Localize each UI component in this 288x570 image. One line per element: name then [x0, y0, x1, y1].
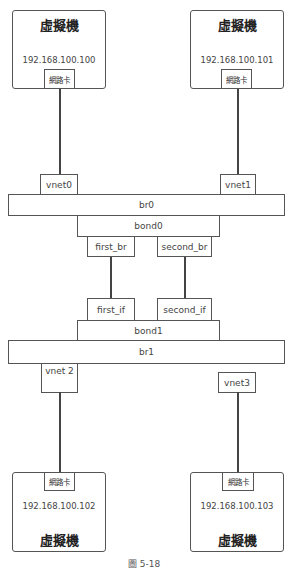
bridge-br0: br0: [8, 194, 285, 216]
vm-3: 網路卡 192.168.100.103 虛擬機: [190, 472, 284, 552]
bond0: bond0: [77, 215, 220, 237]
bond1: bond1: [77, 320, 220, 341]
vm-1-nic: 網路卡: [221, 69, 252, 89]
first-br: first_br: [87, 236, 135, 257]
link-vnet3-vm3: [237, 392, 239, 472]
vm-3-nic: 網路卡: [222, 472, 254, 491]
vm-1-ip: 192.168.100.101: [191, 55, 283, 65]
figure-caption: 圖 5-18: [0, 557, 288, 570]
vm-2-ip: 192.168.100.102: [13, 501, 105, 511]
vnet3: vnet3: [218, 372, 256, 393]
vm-0: 虛擬機 192.168.100.100 網路卡: [12, 10, 106, 89]
vm-3-ip: 192.168.100.103: [191, 501, 283, 511]
vm-2-nic: 網路卡: [44, 472, 75, 491]
vm-2: 網路卡 192.168.100.102 虛擬機: [12, 472, 106, 552]
bridge-br1: br1: [8, 340, 285, 364]
vm-0-nic: 網路卡: [44, 69, 75, 89]
vnet0: vnet0: [40, 174, 78, 195]
vm-0-title: 虛擬機: [13, 15, 105, 34]
first-if: first_if: [87, 298, 135, 321]
link-vm1-vnet1: [237, 89, 239, 174]
link-vnet2-vm2: [59, 392, 61, 472]
vnet1: vnet1: [220, 174, 256, 195]
vnet2: vnet 2: [41, 363, 78, 393]
vm-1-title: 虛擬機: [191, 15, 283, 34]
vm-0-ip: 192.168.100.100: [13, 55, 105, 65]
second-br: second_br: [157, 236, 212, 257]
vm-1: 虛擬機 192.168.100.101 網路卡: [190, 10, 284, 89]
link-vm0-vnet0: [59, 89, 61, 174]
second-if: second_if: [157, 298, 212, 321]
link-first: [110, 257, 112, 299]
vm-3-title: 虛擬機: [191, 530, 283, 549]
vm-2-title: 虛擬機: [13, 530, 105, 549]
link-second: [184, 257, 186, 299]
